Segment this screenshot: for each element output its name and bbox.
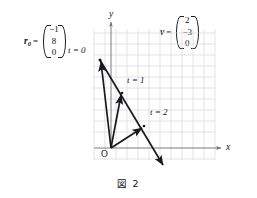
axis-lines xyxy=(94,22,221,148)
figure-container: r0 = −1 8 0 v = 2 −3 0 xyxy=(0,0,257,198)
point-t1 xyxy=(121,92,124,95)
x-axis-label: x xyxy=(226,143,230,153)
coordinate-plot xyxy=(0,0,257,198)
origin-label: O xyxy=(101,150,108,160)
point-t2 xyxy=(143,125,146,128)
figure-caption: 図 2 xyxy=(0,176,257,190)
y-axis-label: y xyxy=(109,10,113,20)
label-t2: t = 2 xyxy=(150,108,168,117)
point-t0 xyxy=(99,59,102,62)
label-t0: t = 0 xyxy=(68,46,86,55)
label-t1: t = 1 xyxy=(127,76,145,85)
plot-svg xyxy=(0,0,257,198)
